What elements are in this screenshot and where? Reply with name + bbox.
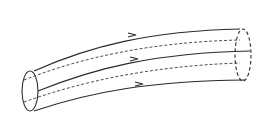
inlet-cross-section xyxy=(22,71,38,111)
flow-arrow-icon xyxy=(135,82,143,86)
streamline-top xyxy=(34,29,240,71)
outlet-cross-section xyxy=(235,29,251,81)
flow-arrow-icon xyxy=(128,33,136,37)
flow-arrow-icon xyxy=(130,57,138,61)
stream-tube-diagram xyxy=(0,0,270,129)
hidden-streamline-lower xyxy=(24,63,240,102)
stream-tube-figure xyxy=(0,0,270,129)
